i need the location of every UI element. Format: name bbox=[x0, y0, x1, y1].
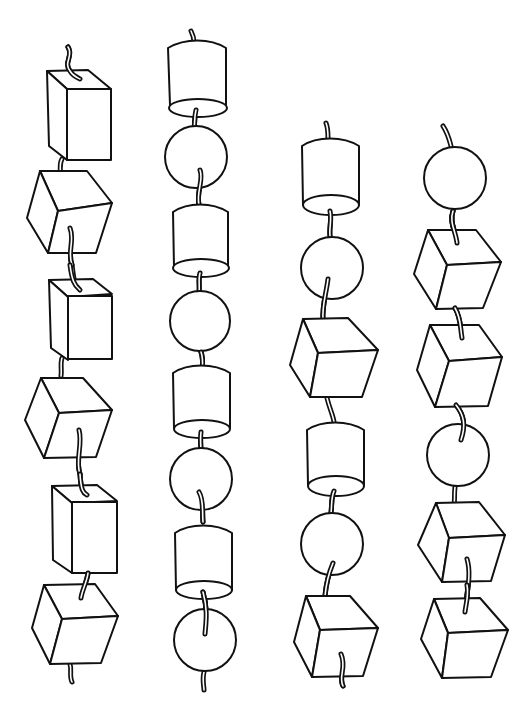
cube-bead-icon bbox=[32, 573, 118, 664]
bead-string-1 bbox=[25, 47, 118, 682]
cube-bead-icon bbox=[417, 308, 502, 407]
cube-bead-icon bbox=[414, 211, 501, 309]
cube-bead-icon bbox=[418, 502, 505, 612]
tall-box-bead-icon bbox=[47, 47, 111, 160]
bead-string-2 bbox=[165, 31, 236, 690]
sphere-bead-icon bbox=[170, 291, 230, 375]
cylinder-bead-icon bbox=[307, 423, 364, 514]
sphere-bead-icon bbox=[427, 405, 489, 486]
cube-bead-icon bbox=[27, 171, 112, 265]
sphere-bead-icon bbox=[301, 237, 363, 320]
sphere-bead-icon bbox=[165, 126, 227, 205]
sphere-bead-icon bbox=[170, 448, 232, 522]
tall-box-bead-icon bbox=[52, 474, 117, 573]
cube-bead-icon bbox=[290, 318, 378, 397]
tall-box-bead-icon bbox=[49, 265, 112, 360]
cube-bead-icon bbox=[421, 585, 508, 678]
bead-string-4 bbox=[414, 126, 508, 678]
sphere-bead-icon bbox=[174, 592, 236, 671]
cylinder-bead-icon bbox=[168, 41, 227, 131]
cylinder-bead-icon bbox=[302, 139, 359, 237]
sphere-bead-icon bbox=[301, 513, 363, 596]
bead-string-3 bbox=[290, 123, 378, 686]
cube-bead-icon bbox=[294, 596, 378, 686]
bead-strings-figure bbox=[0, 0, 531, 719]
cylinder-bead-icon bbox=[173, 366, 230, 453]
cylinder-bead-icon bbox=[173, 205, 229, 293]
cube-bead-icon bbox=[25, 378, 112, 474]
